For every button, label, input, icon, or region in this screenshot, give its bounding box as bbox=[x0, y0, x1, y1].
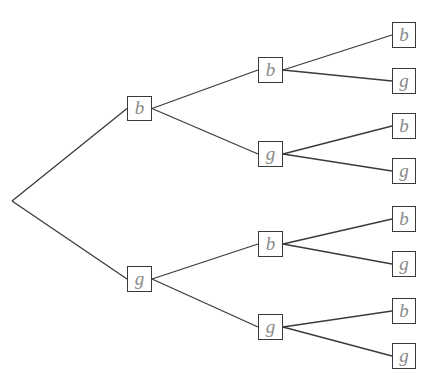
tree-node-boy: b bbox=[258, 57, 283, 83]
node-label: b bbox=[399, 209, 409, 228]
tree-node-girl: g bbox=[127, 266, 152, 292]
tree-edge bbox=[283, 219, 392, 244]
tree-edge bbox=[283, 154, 392, 171]
node-label: g bbox=[266, 317, 276, 336]
tree-edges bbox=[0, 0, 426, 376]
tree-edge bbox=[12, 109, 127, 202]
node-label: b bbox=[399, 25, 409, 44]
tree-edge bbox=[283, 70, 392, 81]
tree-node-girl: g bbox=[392, 158, 416, 184]
tree-edge bbox=[12, 201, 127, 279]
tree-diagram: bgbgbgbgbgbgbg bbox=[0, 0, 426, 376]
node-label: b bbox=[135, 98, 145, 117]
node-label: g bbox=[399, 254, 409, 273]
tree-node-girl: g bbox=[258, 314, 283, 340]
tree-edge bbox=[283, 35, 392, 70]
tree-edge bbox=[152, 70, 258, 109]
tree-edge bbox=[283, 244, 392, 264]
tree-edge bbox=[283, 126, 392, 154]
tree-edge bbox=[283, 327, 392, 356]
node-label: b bbox=[266, 60, 276, 79]
tree-edge bbox=[283, 311, 392, 327]
tree-edge bbox=[152, 109, 258, 155]
node-label: g bbox=[399, 346, 409, 365]
tree-node-girl: g bbox=[392, 251, 416, 277]
tree-node-boy: b bbox=[392, 298, 416, 324]
tree-node-boy: b bbox=[392, 206, 416, 232]
tree-node-boy: b bbox=[392, 113, 416, 139]
tree-edge bbox=[152, 279, 258, 327]
tree-node-girl: g bbox=[258, 141, 283, 167]
node-label: b bbox=[266, 234, 276, 253]
tree-node-boy: b bbox=[392, 22, 416, 48]
tree-node-girl: g bbox=[392, 68, 416, 94]
node-label: b bbox=[399, 116, 409, 135]
node-label: g bbox=[135, 269, 145, 288]
node-label: g bbox=[266, 144, 276, 163]
node-label: g bbox=[399, 161, 409, 180]
node-label: b bbox=[399, 301, 409, 320]
tree-node-boy: b bbox=[127, 96, 152, 121]
tree-edge bbox=[152, 244, 258, 279]
node-label: g bbox=[399, 71, 409, 90]
tree-node-boy: b bbox=[258, 231, 283, 257]
tree-node-girl: g bbox=[392, 343, 416, 369]
